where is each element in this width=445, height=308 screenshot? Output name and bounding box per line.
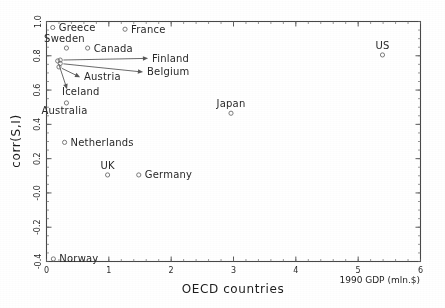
x-tick-label: 4: [293, 266, 298, 275]
data-point-label: Australia: [41, 105, 87, 116]
data-point-label: Canada: [94, 43, 133, 54]
data-point-label: Japan: [216, 98, 246, 109]
data-point-label: Belgium: [147, 66, 189, 77]
y-axis-title: corr(S,I): [9, 114, 23, 167]
y-tick-label: 0.8: [34, 49, 43, 62]
y-tick-label: 0.4: [34, 118, 43, 131]
data-point-label: Austria: [84, 71, 121, 82]
x-tick-label: 1: [106, 266, 111, 275]
data-point-label: US: [375, 40, 389, 51]
data-point-label: Sweden: [44, 33, 85, 44]
x-axis-unit-note: 1990 GDP (mln.$): [339, 275, 420, 285]
y-tick-label: -0.2: [34, 219, 43, 235]
y-tick-label: -0.4: [34, 254, 43, 270]
plot-canvas: 0123456 1.00.80.60.40.2-0.0-0.2-0.4 Gree…: [0, 0, 445, 308]
y-tick-label: 1.0: [34, 15, 43, 28]
data-point-label: Finland: [152, 53, 189, 64]
x-tick-label: 2: [169, 266, 174, 275]
data-point-label: UK: [100, 160, 115, 171]
data-point-label: Greece: [59, 22, 96, 33]
x-tick-label: 6: [418, 266, 423, 275]
x-tick-label: 5: [356, 266, 361, 275]
y-tick-label: -0.0: [34, 185, 43, 201]
x-axis-title: OECD countries: [182, 282, 285, 296]
data-point-label: Iceland: [62, 86, 100, 97]
y-tick-label: 0.6: [34, 84, 43, 97]
data-point-label: Norway: [59, 253, 98, 264]
data-point-label: Germany: [145, 169, 192, 180]
y-tick-label: 0.2: [34, 152, 43, 165]
x-tick-label: 3: [231, 266, 236, 275]
scatter-plot-figure: 0123456 1.00.80.60.40.2-0.0-0.2-0.4 Gree…: [0, 0, 445, 308]
x-tick-label: 0: [44, 266, 49, 275]
data-point-label: Netherlands: [71, 137, 134, 148]
data-point-label: France: [131, 24, 165, 35]
